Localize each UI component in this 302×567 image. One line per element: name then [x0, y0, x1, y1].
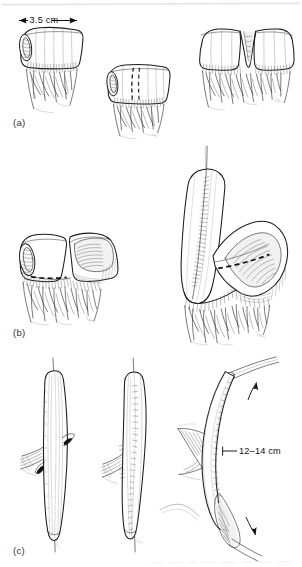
- panel-b-label: (b): [13, 327, 25, 338]
- dimension-3-5-cm-label: 3.5 cm: [30, 15, 59, 25]
- surgical-illustration-plate: 3.5 cm: [0, 0, 302, 567]
- dimension-12-14-cm-label: 12–14 cm: [239, 446, 281, 456]
- panel-a-label: (a): [13, 117, 25, 128]
- v-segment-left-limb: [200, 29, 241, 70]
- figure-sheet: 3.5 cm: [0, 0, 302, 567]
- panel-c-label: (c): [13, 545, 25, 556]
